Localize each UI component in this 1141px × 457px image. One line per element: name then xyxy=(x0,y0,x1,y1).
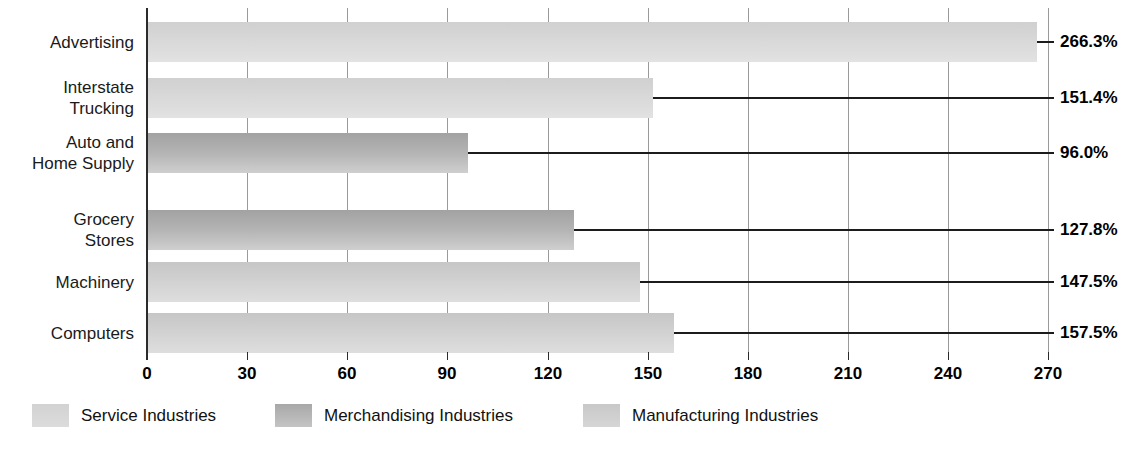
category-label-line: Advertising xyxy=(0,32,134,53)
plot-area: Advertising Interstate Trucking Auto and… xyxy=(0,0,1141,400)
xtick-240 xyxy=(948,352,949,360)
xtick-210 xyxy=(848,352,849,360)
bar-grocery-stores[interactable] xyxy=(148,210,574,250)
leader-line-grocery-stores xyxy=(574,229,1054,231)
bar-auto-and-home-supply[interactable] xyxy=(148,133,468,173)
xtick-label-90: 90 xyxy=(417,364,477,384)
chart-root: Advertising Interstate Trucking Auto and… xyxy=(0,0,1141,457)
legend-item-manufacturing-industries[interactable]: Manufacturing Industries xyxy=(583,404,818,427)
legend-item-service-industries[interactable]: Service Industries xyxy=(32,404,216,427)
xtick-30 xyxy=(247,352,248,360)
xtick-label-30: 30 xyxy=(217,364,277,384)
legend-label: Service Industries xyxy=(81,406,216,426)
xtick-label-210: 210 xyxy=(818,364,878,384)
category-label-line: Stores xyxy=(0,230,134,251)
category-label-computers: Computers xyxy=(0,323,134,344)
category-label-advertising: Advertising xyxy=(0,32,134,53)
xtick-label-0: 0 xyxy=(117,364,177,384)
value-label-auto-and-home-supply: 96.0% xyxy=(1060,144,1108,162)
category-label-machinery: Machinery xyxy=(0,272,134,293)
xtick-270 xyxy=(1048,352,1049,360)
bar-interstate-trucking[interactable] xyxy=(148,78,653,118)
category-label-line: Trucking xyxy=(0,98,134,119)
value-label-computers: 157.5% xyxy=(1060,324,1118,342)
legend-label: Merchandising Industries xyxy=(324,406,513,426)
category-label-auto-and-home-supply: Auto and Home Supply xyxy=(0,132,134,174)
leader-line-computers xyxy=(674,332,1054,334)
xtick-label-150: 150 xyxy=(618,364,678,384)
legend-swatch-icon xyxy=(32,404,69,427)
leader-line-advertising xyxy=(1037,41,1054,43)
legend-swatch-icon xyxy=(583,404,620,427)
category-label-interstate-trucking: Interstate Trucking xyxy=(0,77,134,119)
leader-line-machinery xyxy=(640,281,1054,283)
gridline-270 xyxy=(1048,8,1049,360)
category-label-line: Grocery xyxy=(0,209,134,230)
leader-line-interstate-trucking xyxy=(653,97,1054,99)
xtick-label-270: 270 xyxy=(1018,364,1078,384)
category-label-line: Interstate xyxy=(0,77,134,98)
xtick-60 xyxy=(347,352,348,360)
legend-swatch-icon xyxy=(275,404,312,427)
value-label-grocery-stores: 127.8% xyxy=(1060,221,1118,239)
xtick-90 xyxy=(447,352,448,360)
category-label-line: Auto and xyxy=(0,132,134,153)
xtick-150 xyxy=(648,352,649,360)
xtick-label-120: 120 xyxy=(518,364,578,384)
legend-label: Manufacturing Industries xyxy=(632,406,818,426)
value-label-advertising: 266.3% xyxy=(1060,33,1118,51)
leader-line-auto-and-home-supply xyxy=(468,152,1054,154)
xtick-label-240: 240 xyxy=(918,364,978,384)
category-label-line: Machinery xyxy=(0,272,134,293)
value-label-interstate-trucking: 151.4% xyxy=(1060,89,1118,107)
category-label-line: Computers xyxy=(0,323,134,344)
xtick-label-60: 60 xyxy=(317,364,377,384)
bar-advertising[interactable] xyxy=(148,22,1037,62)
legend-item-merchandising-industries[interactable]: Merchandising Industries xyxy=(275,404,513,427)
value-label-machinery: 147.5% xyxy=(1060,273,1118,291)
bar-computers[interactable] xyxy=(148,313,674,353)
bar-machinery[interactable] xyxy=(148,262,640,302)
chart-legend: Service Industries Merchandising Industr… xyxy=(0,400,1141,457)
xtick-0 xyxy=(147,352,148,360)
xtick-120 xyxy=(548,352,549,360)
xtick-180 xyxy=(748,352,749,360)
category-label-grocery-stores: Grocery Stores xyxy=(0,209,134,251)
xtick-label-180: 180 xyxy=(718,364,778,384)
category-label-line: Home Supply xyxy=(0,153,134,174)
